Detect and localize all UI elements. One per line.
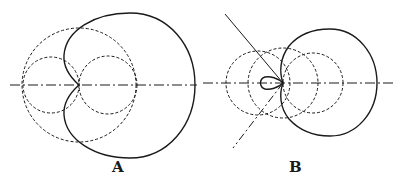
diagram-canvas [0,0,400,181]
tangent-line-upper-b [225,14,283,83]
tangent-line-lower-b [233,83,283,148]
panel-label-a: A [112,158,124,176]
panel-a [10,13,197,158]
panel-label-b: B [289,158,302,176]
panel-b [203,14,396,148]
